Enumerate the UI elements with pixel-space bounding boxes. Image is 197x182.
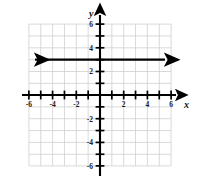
- y-tick-label: 2: [89, 67, 93, 76]
- x-tick-label: 2: [122, 100, 126, 109]
- x-tick-label: -6: [26, 100, 32, 109]
- graph-figure: -6 -4 -2 2 4 6 6 4 2 -2 -4 -6 x y: [0, 0, 197, 182]
- x-tick-label: 6: [169, 100, 173, 109]
- x-tick-label: 4: [146, 100, 150, 109]
- y-tick-label: -6: [87, 162, 93, 171]
- y-axis-label: y: [88, 8, 94, 19]
- coordinate-plane: -6 -4 -2 2 4 6 6 4 2 -2 -4 -6 x y: [0, 0, 197, 182]
- x-tick-label: -4: [49, 100, 55, 109]
- y-tick-label: 6: [89, 20, 93, 29]
- y-tick-label: -2: [87, 115, 93, 124]
- x-tick-label: -2: [73, 100, 79, 109]
- x-axis-label: x: [183, 99, 189, 110]
- y-tick-label: 4: [89, 44, 93, 53]
- y-tick-label: -4: [87, 138, 93, 147]
